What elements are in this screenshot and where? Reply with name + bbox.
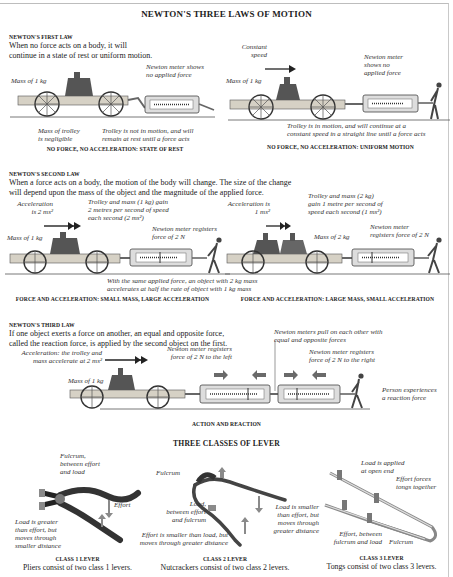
- label-line: between effort: [146, 508, 206, 516]
- label-line: is 2 ms²: [3, 208, 53, 216]
- acceleration-arrow-icon: [44, 221, 82, 231]
- effort-arrow-icon: [241, 517, 249, 534]
- label-line: greater distance: [262, 527, 319, 535]
- second-law-text-line: When a force acts on a body, the motion …: [9, 178, 291, 188]
- class1-subcaption: Pliers consist of two class 1 levers.: [0, 563, 155, 572]
- label-line: moves through: [15, 534, 61, 542]
- label-line: Mass of trolley: [38, 127, 80, 135]
- uniform-caption: NO FORCE, NO ACCELERATION: UNIFORM MOTIO…: [228, 144, 453, 150]
- rest-state-label: Trolley is not in motion, and will remai…: [102, 127, 193, 143]
- label-line: Newton meter registers: [309, 348, 375, 356]
- label-line: shows no: [364, 61, 403, 69]
- second-law-text: When a force acts on a body, the motion …: [9, 178, 291, 197]
- small-mass-caption: FORCE AND ACCELERATION: SMALL MASS, LARG…: [0, 296, 225, 302]
- label-line: force of 2 N to the left: [150, 353, 232, 361]
- label-line: Acceleration: the trolley and: [4, 349, 102, 357]
- load-marker-icon: [208, 505, 216, 511]
- label-line: Constant: [232, 43, 267, 51]
- label-line: accelerates at half the rate of object w…: [107, 285, 257, 293]
- label-line: Newton meter registers: [150, 345, 232, 353]
- class2-fulcrum-label: Fulcrum: [156, 469, 180, 477]
- small-mass-gain-label: Trolley and mass (1 kg) gain 2 metres pe…: [88, 198, 169, 222]
- third-law-text-line: If one object exerts a force on another,…: [9, 329, 227, 339]
- right-meter-label: Newton meter registers force of 2 N to t…: [309, 348, 375, 364]
- label-line: speed each second (1 ms²): [308, 208, 383, 216]
- uniform-meter-label: Newton meter shows no applied force: [364, 53, 403, 77]
- label-line: Load,: [146, 500, 206, 508]
- label-line: Load is smaller: [262, 503, 319, 511]
- class3-between-label: Effort, between fulcrum and load: [320, 530, 382, 546]
- shared-note: With the same applied force, an object w…: [107, 277, 257, 293]
- rest-caption: NO FORCE, NO ACCELERATION: STATE OF REST: [0, 146, 230, 152]
- trolley-large-mass-illustration: [225, 230, 450, 277]
- label-line: is negligible: [38, 135, 80, 143]
- force-arrow-right-icon: [214, 370, 228, 380]
- second-law-text-line: will depend upon the mass of the object …: [9, 188, 291, 198]
- label-line: Trolley and mass (2 kg): [308, 192, 383, 200]
- force-arrow-right-icon: [284, 370, 298, 380]
- levers-title: THREE CLASSES OF LEVER: [0, 439, 453, 448]
- label-line: moves through greater distance: [120, 539, 228, 547]
- load-marker-icon: [39, 489, 45, 497]
- label-line: Acceleration: [3, 200, 53, 208]
- large-mass-caption: FORCE AND ACCELERATION: LARGE MASS, SMAL…: [222, 296, 453, 302]
- effort-marker-icon: [374, 493, 379, 503]
- label-line: Trolley and mass (1 kg) gain: [88, 198, 169, 206]
- effort-marker-icon: [367, 513, 372, 523]
- uniform-state-label: Trolley is in motion, and will continue …: [287, 122, 425, 138]
- trolley-small-mass-illustration: [5, 232, 230, 277]
- label-line: Acceleration is: [220, 200, 270, 208]
- action-reaction-illustration: [70, 363, 370, 411]
- label-line: Effort, between: [320, 530, 382, 538]
- force-arrow-left-icon: [312, 370, 326, 380]
- label-line: than effort, but: [262, 511, 319, 519]
- person-reaction-label: Person experiences a reaction force: [382, 386, 437, 402]
- label-line: Newton meter shows: [146, 63, 204, 71]
- page-title: NEWTON'S THREE LAWS OF MOTION: [0, 9, 453, 19]
- label-line: Effort is smaller than load, but: [120, 531, 228, 539]
- label-line: Trolley is in motion, and will continue …: [287, 122, 425, 130]
- class3-caption: CLASS 3 LEVER: [310, 555, 453, 561]
- class2-subcaption: Nutcrackers consist of two class 2 lever…: [155, 563, 295, 572]
- label-line: gain 1 metre per second of: [308, 200, 383, 208]
- uniform-mass-label: Mass of 1 kg: [226, 77, 262, 85]
- rest-mass-label: Mass of 1 kg: [11, 77, 47, 85]
- left-meter-label: Newton meter registers force of 2 N to t…: [150, 345, 232, 361]
- label-line: between effort: [60, 460, 100, 468]
- trolley-mass-label: Mass of trolley is negligible: [38, 127, 80, 143]
- class3-subcaption: Tongs consist of two class 3 levers.: [310, 562, 453, 571]
- label-line: 2 metres per second of speed: [88, 206, 169, 214]
- class1-caption: CLASS 1 LEVER: [0, 556, 155, 562]
- label-line: Fulcrum,: [60, 452, 100, 460]
- label-line: moves through: [262, 519, 319, 527]
- label-line: Newton meter: [364, 53, 403, 61]
- class1-effort-label: Effort: [114, 501, 130, 509]
- label-line: fulcrum and load: [320, 538, 382, 546]
- label-line: constant speed in a straight line until …: [287, 130, 425, 138]
- label-line: remain at rest until a force acts: [102, 135, 193, 143]
- label-line: With the same applied force, an object w…: [107, 277, 257, 285]
- class2-load-smaller-label: Load is smaller than effort, but moves t…: [262, 503, 319, 535]
- load-marker-icon: [337, 470, 342, 480]
- rest-meter-label: Newton meter shows no applied force: [146, 63, 204, 79]
- load-marker-icon: [342, 500, 347, 510]
- label-line: Newton meters pull on each other with: [274, 328, 383, 336]
- label-line: and fulcrum: [146, 516, 206, 524]
- label-line: 1 ms²: [220, 208, 270, 216]
- constant-speed-label: Constant speed: [232, 43, 267, 59]
- third-law-caption: ACTION AND REACTION: [0, 421, 453, 427]
- effort-arrow-icon: [105, 500, 113, 518]
- label-line: smaller distance: [15, 542, 61, 550]
- class2-effort-label: Effort is smaller than load, but moves t…: [120, 531, 228, 547]
- force-arrow-left-icon: [252, 370, 266, 380]
- class2-load-label: Load, between effort and fulcrum: [146, 500, 206, 524]
- large-mass-gain-label: Trolley and mass (2 kg) gain 1 metre per…: [308, 192, 383, 216]
- pull-label: Newton meters pull on each other with eq…: [274, 328, 383, 344]
- first-law-heading: NEWTON'S FIRST LAW: [9, 34, 73, 40]
- label-line: equal and opposite forces: [274, 336, 383, 344]
- third-law-heading: NEWTON'S THIRD LAW: [9, 322, 75, 328]
- label-line: each second (2 ms²): [88, 214, 169, 222]
- class1-fulcrum-label: Fulcrum, between effort and load: [60, 452, 100, 476]
- label-line: Person experiences: [382, 386, 437, 394]
- first-law-text: When no force acts on a body, it will co…: [9, 41, 152, 60]
